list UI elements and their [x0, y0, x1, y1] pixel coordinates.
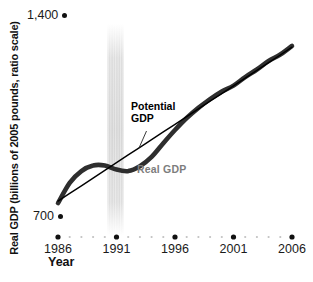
series-layer: [58, 46, 292, 203]
x-axis-major-dot: [55, 234, 60, 239]
x-axis-minor-dot: [197, 236, 199, 238]
x-axis-minor-dot: [268, 236, 270, 238]
x-axis-minor-dot: [151, 236, 153, 238]
gdp-chart-figure: Real GDP (billions of 2005 pounds, ratio…: [0, 0, 313, 282]
x-axis-minor-dot: [127, 236, 129, 238]
x-axis-year-label: 1996: [157, 242, 193, 256]
x-axis-minor-dot: [139, 236, 141, 238]
x-axis-minor-dot: [104, 236, 106, 238]
chart-canvas: [0, 0, 313, 282]
x-axis-year-label: 1986: [40, 242, 76, 256]
x-axis-major-dot: [289, 234, 294, 239]
x-axis-minor-dot: [221, 236, 223, 238]
x-axis-minor-dot: [69, 236, 71, 238]
x-axis-minor-dot: [256, 236, 258, 238]
x-axis-title: Year: [48, 255, 74, 269]
x-axis-year-label: 2006: [274, 242, 310, 256]
x-axis-minor-dot: [186, 236, 188, 238]
x-axis-major-dot: [114, 234, 119, 239]
x-axis-minor-dot: [209, 236, 211, 238]
potential-gdp-label: Potential GDP: [131, 101, 175, 124]
x-axis-minor-dot: [162, 236, 164, 238]
x-axis-minor-dot: [244, 236, 246, 238]
x-axis-major-dot: [231, 234, 236, 239]
real-gdp-label: Real GDP: [137, 164, 186, 176]
x-axis-minor-dot: [92, 236, 94, 238]
potential-gdp-line: [58, 47, 292, 201]
recession-band-stripes: [108, 24, 124, 236]
x-axis-dots: [55, 234, 294, 239]
x-axis-minor-dot: [80, 236, 82, 238]
x-axis-labels: 19861991199620012006: [0, 242, 313, 258]
x-axis-minor-dot: [279, 236, 281, 238]
x-axis-year-label: 2001: [216, 242, 252, 256]
x-axis-year-label: 1991: [99, 242, 135, 256]
x-axis-major-dot: [172, 234, 177, 239]
